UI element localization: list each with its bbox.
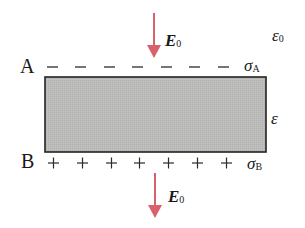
dielectric-diagram: E0 ε0 A σA ε B σB E0 [0, 0, 305, 228]
outer-permittivity-label: ε0 [272, 26, 284, 45]
field-label-bottom: E0 [167, 187, 184, 206]
dielectric-slab [45, 77, 266, 152]
sigma-B-label: σB [247, 154, 262, 173]
positive-surface-charges [48, 158, 232, 169]
field-label-top: E0 [164, 31, 181, 50]
field-arrow-bottom [148, 173, 162, 218]
field-arrow-top [147, 13, 161, 58]
inner-permittivity-label: ε [271, 109, 278, 128]
sigma-A-label: σA [244, 56, 260, 75]
surface-A-label: A [20, 55, 35, 77]
surface-B-label: B [21, 150, 34, 172]
